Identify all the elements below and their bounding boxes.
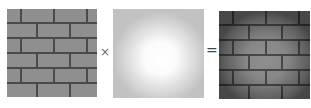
brick-texture-image bbox=[7, 9, 97, 97]
light-map-image bbox=[113, 9, 204, 98]
lighting-overlay bbox=[219, 11, 310, 99]
equals-symbol: = bbox=[206, 44, 218, 56]
multiply-symbol: × bbox=[100, 46, 110, 58]
result-image bbox=[219, 11, 310, 99]
